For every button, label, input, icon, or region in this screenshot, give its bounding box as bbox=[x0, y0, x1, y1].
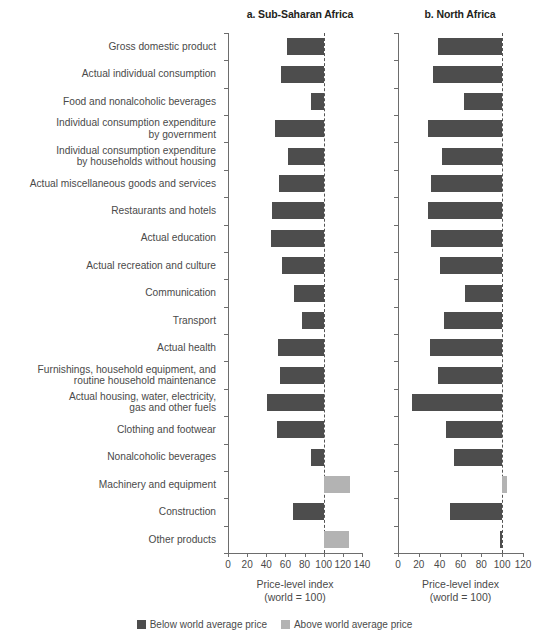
category-axis-tick bbox=[224, 334, 228, 335]
bar-below-world-average bbox=[281, 66, 324, 83]
legend: Below world average priceAbove world ave… bbox=[0, 619, 549, 630]
category-axis-tick bbox=[224, 444, 228, 445]
x-axis-tick-label: 60 bbox=[455, 559, 466, 570]
panel-sub-saharan-africa: 020406080100120140 bbox=[228, 33, 362, 553]
bar-below-world-average bbox=[450, 503, 502, 520]
x-axis-tick-label: 40 bbox=[434, 559, 445, 570]
x-axis-tick bbox=[324, 553, 325, 557]
category-label: Actual health bbox=[157, 342, 216, 354]
x-axis-tick bbox=[343, 553, 344, 557]
bar-below-world-average bbox=[278, 339, 324, 356]
bar-below-world-average bbox=[311, 449, 323, 466]
category-axis-tick bbox=[394, 170, 398, 171]
category-axis-tick bbox=[224, 170, 228, 171]
x-axis-tick bbox=[398, 553, 399, 557]
x-axis-tick bbox=[285, 553, 286, 557]
bar-below-world-average bbox=[279, 175, 324, 192]
category-axis-tick bbox=[224, 361, 228, 362]
category-axis-tick bbox=[224, 279, 228, 280]
legend-label: Below world average price bbox=[150, 619, 267, 630]
price-level-index-figure: a. Sub-Saharan Africa b. North Africa Gr… bbox=[0, 0, 549, 637]
category-axis-tick bbox=[224, 526, 228, 527]
bar-below-world-average bbox=[287, 38, 323, 55]
bar-above-world-average bbox=[324, 531, 349, 548]
category-label: Actual education bbox=[141, 232, 216, 244]
x-axis-tick-label: 80 bbox=[299, 559, 310, 570]
legend-item: Above world average price bbox=[281, 619, 412, 630]
category-axis-tick bbox=[224, 252, 228, 253]
x-axis-tick bbox=[419, 553, 420, 557]
bar-below-world-average bbox=[454, 449, 502, 466]
category-axis-tick bbox=[224, 498, 228, 499]
bar-below-world-average bbox=[465, 285, 503, 302]
bar-above-world-average bbox=[324, 476, 350, 493]
category-axis-tick bbox=[224, 225, 228, 226]
category-axis-tick bbox=[224, 471, 228, 472]
category-axis-tick bbox=[224, 142, 228, 143]
category-axis-tick bbox=[224, 553, 228, 554]
x-axis-tick-label: 0 bbox=[225, 559, 231, 570]
legend-swatch bbox=[137, 620, 146, 629]
bar-below-world-average bbox=[444, 312, 502, 329]
bar-below-world-average bbox=[464, 93, 503, 110]
category-label: Actual individual consumption bbox=[82, 68, 216, 80]
panel-north-africa: 020406080100120 bbox=[398, 33, 523, 553]
x-axis-caption-b: Price-level index (world = 100) bbox=[398, 578, 523, 604]
bar-below-world-average bbox=[280, 367, 324, 384]
category-axis-tick bbox=[394, 225, 398, 226]
bar-below-world-average bbox=[442, 148, 502, 165]
x-axis-tick-label: 80 bbox=[476, 559, 487, 570]
x-axis-tick bbox=[523, 553, 524, 557]
x-axis-tick bbox=[362, 553, 363, 557]
bar-below-world-average bbox=[311, 93, 323, 110]
world-average-reference-line-b bbox=[502, 33, 503, 553]
x-axis-tick-label: 120 bbox=[515, 559, 532, 570]
category-axis-tick bbox=[394, 307, 398, 308]
category-axis-tick bbox=[394, 60, 398, 61]
category-axis-tick bbox=[394, 88, 398, 89]
category-label: Nonalcoholic beverages bbox=[107, 451, 216, 463]
category-label: Actual miscellaneous goods and services bbox=[30, 178, 216, 190]
bar-below-world-average bbox=[433, 66, 502, 83]
x-axis-tick bbox=[481, 553, 482, 557]
x-axis-tick bbox=[440, 553, 441, 557]
category-label: Machinery and equipment bbox=[99, 479, 216, 491]
bar-below-world-average bbox=[431, 230, 502, 247]
category-axis-tick bbox=[394, 444, 398, 445]
x-axis-tick bbox=[461, 553, 462, 557]
bar-above-world-average bbox=[502, 476, 507, 493]
category-axis-tick bbox=[224, 307, 228, 308]
category-label: Actual housing, water, electricity, gas … bbox=[69, 391, 216, 414]
bar-below-world-average bbox=[446, 421, 502, 438]
x-axis-tick bbox=[247, 553, 248, 557]
bar-below-world-average bbox=[500, 531, 502, 548]
x-axis-tick bbox=[502, 553, 503, 557]
category-axis-tick bbox=[224, 115, 228, 116]
category-axis-tick bbox=[394, 361, 398, 362]
x-axis-tick-label: 20 bbox=[242, 559, 253, 570]
x-axis-tick-label: 140 bbox=[354, 559, 371, 570]
x-axis-caption-a: Price-level index (world = 100) bbox=[228, 578, 362, 604]
bar-below-world-average bbox=[275, 120, 324, 137]
panel-b-title: b. North Africa bbox=[396, 8, 524, 20]
category-label: Other products bbox=[149, 534, 216, 546]
category-axis-tick bbox=[224, 60, 228, 61]
category-axis-tick bbox=[394, 142, 398, 143]
bar-below-world-average bbox=[428, 120, 502, 137]
bar-below-world-average bbox=[294, 285, 324, 302]
world-average-reference-line-a bbox=[324, 33, 325, 553]
category-label-column: Gross domestic productActual individual … bbox=[0, 33, 222, 553]
category-axis-tick bbox=[394, 389, 398, 390]
category-axis-tick bbox=[394, 197, 398, 198]
category-axis-tick bbox=[394, 279, 398, 280]
category-axis-tick bbox=[394, 115, 398, 116]
x-axis-tick bbox=[305, 553, 306, 557]
legend-label: Above world average price bbox=[294, 619, 412, 630]
x-axis-tick bbox=[228, 553, 229, 557]
category-label: Individual consumption expenditure by ho… bbox=[56, 145, 216, 168]
category-axis-tick bbox=[394, 471, 398, 472]
bar-below-world-average bbox=[412, 394, 503, 411]
x-axis-tick-label: 120 bbox=[335, 559, 352, 570]
category-axis-tick bbox=[394, 33, 398, 34]
category-label: Clothing and footwear bbox=[117, 424, 216, 436]
